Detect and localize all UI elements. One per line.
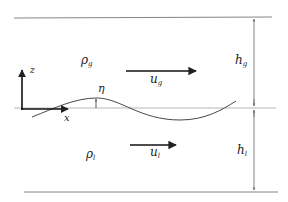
u-l-label: ul [150, 146, 160, 160]
u-g-label: ug [150, 73, 162, 87]
top-boundary-line [14, 17, 272, 18]
rho-l-label: ρl [86, 148, 95, 162]
h-l-label: hl [237, 144, 247, 158]
h-g-label: hg [235, 54, 247, 68]
rho-g-label: ρg [81, 54, 93, 68]
diagram-canvas [0, 0, 288, 202]
eta-label: η [98, 83, 105, 94]
x-axis-label: x [64, 113, 70, 123]
z-axis-label: z [30, 66, 35, 75]
